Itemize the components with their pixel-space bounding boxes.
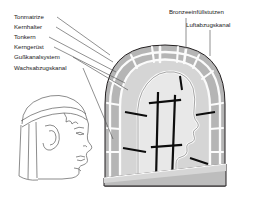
diagram-canvas: Tonmatrize Kernhalter Tonkern Kerngerüst… [0, 0, 261, 200]
label-luftabzugskanal: Luftabzugskanal [186, 21, 230, 28]
label-tonmatrize: Tonmatrize [14, 13, 44, 20]
label-kerngeruest: Kerngerüst [14, 43, 44, 50]
label-tonkern: Tonkern [14, 33, 36, 40]
label-kernhalter: Kernhalter [14, 23, 42, 30]
mold-cross-section [104, 45, 226, 186]
label-wachsabzugskanal: Wachsabzugskanal [14, 64, 67, 71]
casting-diagram-figure: Tonmatrize Kernhalter Tonkern Kerngerüst… [0, 0, 261, 200]
label-gusskanalsystem: Gußkanalsystem [14, 53, 60, 60]
label-bronzeeinfuellstutzen: Bronzeeinfüllstutzen [169, 8, 224, 15]
